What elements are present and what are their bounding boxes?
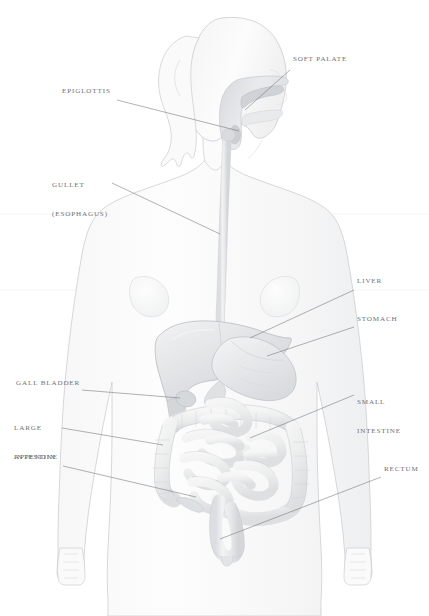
label-rectum: RECTUM (384, 465, 419, 475)
label-large-intestine-line1: LARGE (14, 424, 58, 434)
label-gullet-esophagus: GULLET (ESOPHAGUS) (52, 162, 108, 239)
label-small-intestine-line2: INTESTINE (357, 427, 401, 437)
label-gall-bladder: GALL BLADDER (16, 379, 80, 389)
label-gullet-line2: (ESOPHAGUS) (52, 210, 108, 220)
label-epiglottis: EPIGLOTTIS (62, 87, 111, 97)
label-appendix: APPENDIX (14, 453, 56, 463)
label-small-intestine: SMALL INTESTINE (357, 379, 401, 456)
label-soft-palate: SOFT PALATE (293, 55, 347, 65)
label-liver: LIVER (357, 277, 382, 287)
label-stomach: STOMACH (357, 315, 398, 325)
gall-bladder-shape (176, 391, 196, 407)
label-small-intestine-line1: SMALL (357, 398, 401, 408)
label-gullet-line1: GULLET (52, 181, 108, 191)
label-large-intestine: LARGE INTESTINE (14, 405, 58, 482)
diagram-page: SOFT PALATE EPIGLOTTIS GULLET (ESOPHAGUS… (0, 0, 429, 616)
hair (159, 36, 199, 167)
